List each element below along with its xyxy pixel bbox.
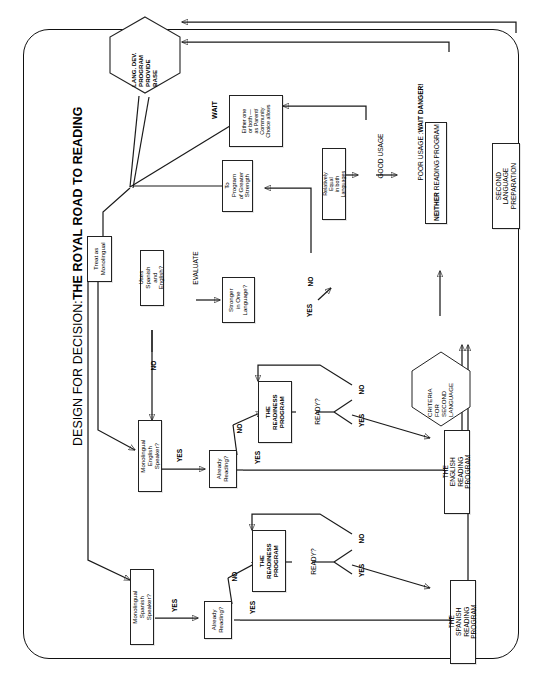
node-already-reading-english[interactable]: Already Reading? (209, 450, 237, 488)
node-to-program-greater-strength-label: To Program of Greater Strength (224, 172, 251, 201)
node-readiness-program-spanish-label: THE READINESS PROGRAM (259, 543, 279, 579)
label-poor-usage-emphasis: WAIT DANGER! (417, 83, 424, 132)
ready-eng-fork-stem-a (334, 400, 352, 412)
title-prefix: DESIGN FOR DECISION: (71, 300, 85, 446)
node-second-language-preparation-label: SECOND LANGUAGE PREPARATION (495, 163, 517, 209)
node-criteria-label: CRITERIA FOR SECOND LANGUAGE (427, 339, 455, 417)
label-ready-spanish-text: READY? (309, 548, 317, 574)
page-title: DESIGN FOR DECISION: THE ROYAL ROAD TO R… (67, 146, 89, 446)
label-yes-span-speaker: YES (169, 594, 180, 618)
label-ready-english: READY? (312, 393, 323, 431)
node-relatively-equal[interactable]: Relatively Equal in both Languages (322, 148, 346, 220)
node-spanish-reading-program[interactable]: THE SPANISH READING PROGRAM (450, 580, 476, 664)
node-lang-dev-program-label: LANG. DEV. PROGRAM PROVIDE BASE (131, 1, 159, 87)
label-yes-eng-speaker-text: YES (175, 449, 183, 462)
label-no-stronger: NO (305, 272, 316, 292)
node-readiness-program-english[interactable]: THE READINESS PROGRAM (258, 381, 292, 443)
node-already-reading-spanish[interactable]: Already Reading? (204, 601, 232, 639)
node-readiness-program-english-label: THE READINESS PROGRAM (265, 394, 285, 430)
neither-rest: READING PROGRAM (432, 125, 439, 193)
wire-monolingual-branch-english (98, 282, 135, 450)
label-no-ready-span: NO (356, 529, 367, 549)
title-emphasis: THE ROYAL ROAD TO READING (71, 106, 85, 300)
label-ready-spanish: READY? (308, 543, 319, 581)
label-no-stronger-text: NO (306, 277, 314, 287)
label-no-uses: NO (148, 356, 159, 376)
node-uses-spanish-and-english-label: Uses Spanish and English? (138, 266, 165, 289)
wire-second-lang-prep-to-lang-dev (182, 22, 516, 33)
node-already-reading-english-label: Already Reading? (216, 456, 230, 482)
label-no-already-span: NO (229, 567, 240, 587)
wire-stronger-no-to-relatively-equal (318, 288, 331, 300)
ready-eng-fork-stem-b (334, 412, 352, 424)
label-yes-ready-span: YES (356, 559, 367, 583)
label-no-already-span-text: NO (230, 572, 238, 582)
node-relatively-equal-label: Relatively Equal in both Languages (322, 171, 346, 198)
node-criteria-for-second-language[interactable]: CRITERIA FOR SECOND LANGUAGE (408, 350, 474, 428)
node-either-one-or-both[interactable]: Either one or both — as Parent/ Communit… (229, 95, 283, 147)
label-yes-ready-span-text: YES (357, 564, 365, 577)
label-yes-stronger: YES (304, 300, 315, 322)
wire-monolingual-branch-spanish (88, 282, 130, 580)
label-good-usage-text: GOOD USAGE (377, 133, 385, 178)
ready-span-fork-stem-a (334, 550, 352, 562)
label-yes-span-speaker-text: YES (170, 599, 178, 612)
node-to-program-greater-strength[interactable]: To Program of Greater Strength (222, 160, 253, 212)
wire-good-usage-to-either-one (283, 106, 366, 120)
node-lang-dev-program[interactable]: LANG. DEV. PROGRAM PROVIDE BASE (104, 14, 186, 96)
label-ready-english-text: READY? (313, 398, 321, 424)
label-no-ready-span-text: NO (357, 534, 365, 544)
label-wait: WAIT (209, 93, 221, 127)
label-yes-eng-speaker: YES (174, 444, 185, 468)
label-no-already-eng: NO (234, 419, 245, 439)
node-treat-as-monolingual[interactable]: Treat as Monolingual (87, 236, 112, 282)
node-neither-reading-program[interactable]: NEITHER READING PROGRAM (425, 122, 447, 224)
node-readiness-program-spanish[interactable]: THE READINESS PROGRAM (252, 530, 286, 592)
node-stronger-in-one-language[interactable]: Stronger in One Language? (222, 277, 255, 323)
label-no-already-eng-text: NO (235, 424, 243, 434)
hex-leg-b (133, 97, 149, 188)
label-poor-usage-prefix: POOR USAGE : (417, 133, 424, 181)
label-yes-already-eng: YES (252, 446, 263, 470)
neither-emphasis: NEITHER (432, 192, 439, 221)
node-treat-as-monolingual-label: Treat as Monolingual (93, 243, 107, 276)
ready-span-fork-stem-b (334, 562, 352, 574)
node-second-language-preparation[interactable]: SECOND LANGUAGE PREPARATION (492, 143, 520, 229)
node-monolingual-english-speaker[interactable]: Monolingual English Speaker? (138, 420, 162, 492)
node-either-one-or-both-label: Either one or both — as Parent/ Communit… (241, 95, 271, 147)
wire-neither-to-lang-dev (182, 42, 449, 52)
label-yes-already-eng-text: YES (253, 451, 261, 464)
hex-leg-a (130, 96, 139, 187)
label-yes-ready-eng-text: YES (357, 414, 365, 427)
node-already-reading-spanish-label: Already Reading? (211, 607, 225, 633)
wire-stronger-yes-to-greater-strength (265, 188, 311, 253)
node-neither-reading-program-label: NEITHER READING PROGRAM (432, 125, 439, 222)
node-monolingual-spanish-speaker[interactable]: Monolingual Spanish Speaker? (130, 569, 154, 645)
label-yes-already-span: YES (247, 596, 258, 620)
label-no-uses-text: NO (149, 361, 157, 371)
label-yes-stronger-text: YES (305, 304, 313, 317)
label-no-ready-eng: NO (356, 380, 367, 400)
node-monolingual-english-speaker-label: Monolingual English Speaker? (140, 440, 160, 473)
label-no-ready-eng-text: NO (357, 385, 365, 395)
label-evaluate: EVALUATE (190, 240, 202, 296)
junction-to-treat-monolingual (103, 188, 130, 236)
label-yes-already-span-text: YES (248, 601, 256, 614)
node-monolingual-spanish-speaker-label: Monolingual Spanish Speaker? (132, 591, 152, 624)
node-spanish-reading-program-label: THE SPANISH READING PROGRAM (448, 605, 478, 639)
label-wait-text: WAIT (211, 101, 219, 119)
label-good-usage: GOOD USAGE (375, 125, 387, 187)
node-uses-spanish-and-english[interactable]: Uses Spanish and English? (140, 250, 164, 306)
diagram-canvas: DESIGN FOR DECISION: THE ROYAL ROAD TO R… (0, 0, 541, 687)
node-stronger-in-one-language-label: Stronger in One Language? (228, 285, 248, 316)
node-english-reading-program[interactable]: THE ENGLISH READING PROGRAM (444, 430, 470, 514)
label-evaluate-text: EVALUATE (192, 251, 200, 284)
node-english-reading-program-label: THE ENGLISH READING PROGRAM (442, 455, 472, 489)
label-yes-ready-eng: YES (356, 409, 367, 433)
